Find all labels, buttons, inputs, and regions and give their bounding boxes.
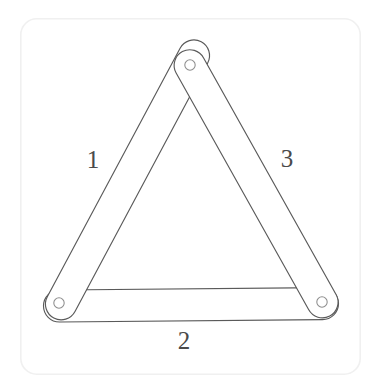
- triangle-linkage-diagram: 1 2 3: [0, 0, 381, 392]
- bottom-left-pivot-hole: [54, 298, 64, 308]
- figure-container: 1 2 3: [0, 0, 381, 392]
- bar-bottom: [44, 288, 339, 322]
- label-side-1: 1: [87, 146, 100, 173]
- label-side-2: 2: [178, 327, 191, 354]
- label-side-3: 3: [281, 145, 294, 172]
- bottom-right-pivot-hole: [317, 297, 327, 307]
- apex-pivot-hole: [185, 60, 195, 70]
- bar-bottom-outline: [44, 288, 339, 322]
